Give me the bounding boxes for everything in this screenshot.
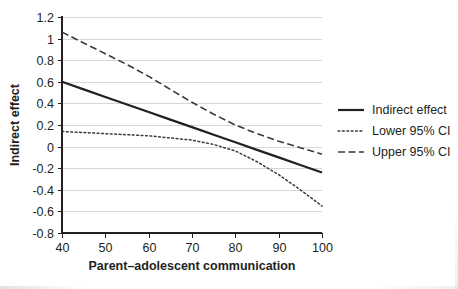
y-tick-label: 0: [47, 141, 54, 155]
x-tick-label: 100: [312, 241, 333, 255]
legend-label: Upper 95% CI: [372, 145, 451, 159]
y-tick-label: -0.6: [32, 205, 54, 219]
y-tick-label: -0.8: [32, 227, 54, 241]
y-tick-label: 0.2: [37, 119, 54, 133]
y-tick-label: 0.4: [37, 97, 54, 111]
chart-legend: Indirect effectLower 95% CIUpper 95% CI: [338, 103, 451, 159]
indirect-effect-line-chart: -0.8-0.6-0.4-0.200.20.40.60.811.2 405060…: [0, 0, 458, 289]
x-axis-tick-labels: 405060708090100: [56, 241, 333, 255]
legend-label: Indirect effect: [372, 103, 447, 117]
y-tick-label: 1: [47, 33, 54, 47]
y-tick-label: -0.2: [32, 162, 54, 176]
y-axis-title: Indirect effect: [8, 83, 22, 166]
plot-area-background: [62, 17, 322, 233]
x-tick-label: 80: [229, 241, 243, 255]
y-tick-label: 0.6: [37, 76, 54, 90]
x-tick-label: 50: [99, 241, 113, 255]
y-tick-label: -0.4: [32, 184, 54, 198]
y-tick-label: 1.2: [37, 11, 54, 25]
x-tick-label: 90: [273, 241, 287, 255]
figure-canvas: -0.8-0.6-0.4-0.200.20.40.60.811.2 405060…: [0, 0, 458, 289]
x-tick-label: 60: [143, 241, 157, 255]
x-axis-title: Parent–adolescent communication: [88, 259, 295, 273]
x-tick-label: 40: [56, 241, 70, 255]
y-axis-tick-labels: -0.8-0.6-0.4-0.200.20.40.60.811.2: [32, 11, 54, 241]
y-tick-label: 0.8: [37, 54, 54, 68]
legend-label: Lower 95% CI: [372, 124, 451, 138]
x-tick-label: 70: [186, 241, 200, 255]
